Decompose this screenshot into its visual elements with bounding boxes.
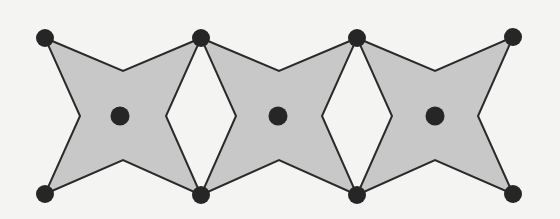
vertex-dot-5	[36, 185, 54, 203]
center-dot-3	[426, 107, 445, 126]
vertex-dot-4	[504, 28, 522, 46]
vertex-dot-2	[192, 29, 210, 47]
vertex-dot-7	[348, 186, 366, 204]
center-dot-2	[269, 107, 288, 126]
vertex-dot-3	[348, 29, 366, 47]
vertex-dot-1	[36, 29, 54, 47]
star-tiling-diagram	[0, 0, 560, 219]
center-dot-1	[111, 107, 130, 126]
vertex-dot-8	[504, 185, 522, 203]
vertex-dot-6	[192, 186, 210, 204]
